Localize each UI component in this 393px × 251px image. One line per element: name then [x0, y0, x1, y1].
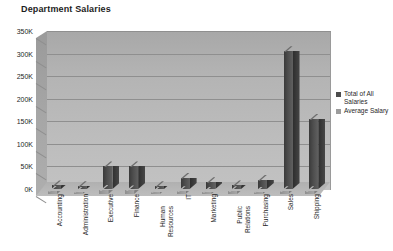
bar-front-face [103, 166, 112, 189]
bar-front-face [284, 51, 293, 189]
bar-group [98, 31, 124, 196]
y-axis-tick-label: 100K [17, 140, 33, 147]
legend-item[interactable]: Average Salary [336, 107, 393, 115]
bar [305, 191, 314, 194]
y-axis: 350K300K250K200K150K100K50K0K [0, 0, 33, 251]
bar [258, 180, 267, 189]
x-axis-tick-label: Sales [287, 194, 295, 246]
bar-front-face [258, 180, 267, 189]
chart-legend: Total of All SalariesAverage Salary [336, 90, 393, 117]
x-axis-tick-label: Purchasing [262, 194, 270, 246]
bar [48, 191, 57, 194]
bar [99, 190, 108, 194]
y-axis-tick-label: 150K [17, 118, 33, 125]
bar-group [279, 31, 305, 196]
plot-area [36, 31, 330, 196]
chart-title: Department Salaries [21, 4, 111, 14]
bar-side-face [241, 185, 248, 189]
y-axis-tick-label: 350K [17, 28, 33, 35]
x-axis: AccountingAdministrationExecutiveFinance… [36, 198, 330, 251]
y-axis-tick-label: 50K [21, 163, 33, 170]
bar-side-face [164, 186, 171, 189]
x-axis-tick-label: Finance [133, 194, 141, 246]
bar-side-face [318, 119, 325, 189]
legend-swatch [336, 109, 341, 114]
bar-side-face [293, 51, 300, 189]
bar [206, 182, 215, 189]
legend-item[interactable]: Total of All Salaries [336, 90, 393, 105]
legend-label: Average Salary [344, 107, 388, 115]
bar-side-face [138, 166, 145, 189]
bar [177, 191, 186, 194]
bar-front-face [181, 178, 190, 189]
bar-group [253, 31, 279, 196]
bar-side-face [160, 192, 167, 194]
bar [284, 51, 293, 189]
bar-group [201, 31, 227, 196]
bar-group [150, 31, 176, 196]
bar-front-face [309, 119, 318, 189]
bar-group [124, 31, 150, 196]
bar-front-face [206, 182, 215, 189]
y-axis-tick-label: 0K [24, 186, 33, 193]
bar [151, 192, 160, 194]
x-axis-tick-label: Administration [82, 194, 90, 246]
chart-container: Department Salaries 350K300K250K200K150K… [0, 0, 393, 251]
bar-side-face [112, 166, 119, 189]
bar-group [176, 31, 202, 196]
bar-group [304, 31, 330, 196]
x-axis-tick-label: Public Relations [236, 206, 251, 246]
x-axis-tick-label: IT [185, 194, 193, 246]
bar [254, 192, 263, 194]
legend-swatch [336, 92, 341, 97]
bar [125, 190, 134, 194]
bar-side-face [190, 178, 197, 189]
y-axis-tick-label: 200K [17, 95, 33, 102]
x-axis-tick-label: Human Resources [159, 206, 174, 246]
bar-side-face [61, 185, 68, 189]
bar [74, 192, 83, 194]
y-axis-tick-label: 300K [17, 50, 33, 57]
bar-side-face [215, 182, 222, 189]
x-axis-tick-label: Shipping [313, 194, 321, 246]
bar-group [227, 31, 253, 196]
bar-group [47, 31, 73, 196]
bar [309, 119, 318, 189]
x-axis-tick-label: Marketing [210, 194, 218, 246]
bar [228, 191, 237, 194]
x-axis-tick-label: Executive [107, 194, 115, 246]
bar-side-face [267, 180, 274, 189]
bar [202, 192, 211, 194]
bar [181, 178, 190, 189]
legend-label: Total of All Salaries [344, 90, 393, 105]
y-axis-tick-label: 250K [17, 73, 33, 80]
bar-side-face [87, 186, 94, 189]
bar [280, 191, 289, 194]
x-axis-tick-label: Accounting [56, 194, 64, 246]
bar-side-face [237, 191, 244, 194]
bar-group [73, 31, 99, 196]
bar [103, 166, 112, 189]
